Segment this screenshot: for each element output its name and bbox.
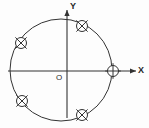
circled-cross-marker-lower-left[interactable] xyxy=(16,95,27,106)
circled-cross-marker-lower-right[interactable] xyxy=(76,109,87,120)
x-axis-label: X xyxy=(138,66,144,75)
x-axis-arrowhead-icon xyxy=(130,68,136,73)
circled-cross-marker-upper-left[interactable] xyxy=(15,37,26,48)
geometry-diagram: Y X O xyxy=(0,0,149,128)
circled-plus-marker[interactable] xyxy=(105,63,121,79)
diagram-canvas xyxy=(0,0,149,128)
y-axis-arrowhead-icon xyxy=(64,10,69,16)
y-axis-label: Y xyxy=(70,2,76,11)
origin-label: O xyxy=(56,74,62,82)
circled-cross-marker-upper-right[interactable] xyxy=(76,20,87,31)
